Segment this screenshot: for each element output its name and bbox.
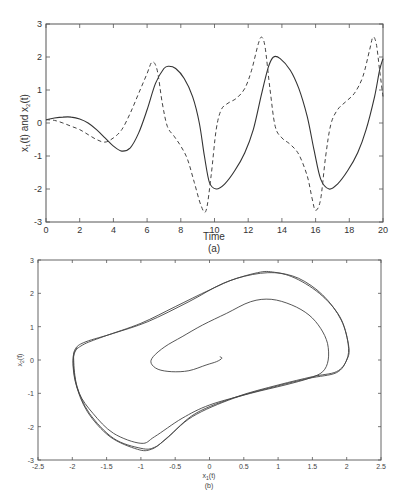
- x-tick-label: 8: [178, 225, 183, 235]
- y-tick-label: 0: [37, 118, 42, 128]
- x-tick-label: 4: [111, 225, 116, 235]
- y-tick-label: -3: [34, 217, 42, 227]
- x-tick-label: -2: [69, 463, 75, 470]
- y-tick-label: -1: [28, 390, 34, 397]
- y-tick-label: -3: [28, 457, 34, 464]
- x-tick-label: 6: [145, 225, 150, 235]
- chart-b-x-axis-label: x1(t): [203, 472, 216, 481]
- x-tick-label: 14: [277, 225, 287, 235]
- y-tick-label: 1: [37, 85, 42, 95]
- y-tick-label: -2: [28, 424, 34, 431]
- figure: 02468101214161820 -3-2-10123 Time (a) x1…: [0, 0, 410, 501]
- x-tick-label: -0.5: [169, 463, 181, 470]
- chart-b-series-trajectory: [73, 271, 349, 450]
- x-tick-label: 0.5: [239, 463, 249, 470]
- x-tick-label: 0: [208, 463, 212, 470]
- x-tick-label: 20: [378, 225, 388, 235]
- x-tick-label: -1.5: [101, 463, 113, 470]
- chart-b-y-tick-labels: -3-2-10123: [28, 257, 34, 464]
- x-tick-label: 2: [345, 463, 349, 470]
- x-tick-label: 18: [344, 225, 354, 235]
- x-tick-label: -2.5: [32, 463, 44, 470]
- chart-a-series-x1-solid: [46, 56, 383, 189]
- chart-a-ticks: [46, 24, 383, 222]
- chart-b-x-tick-labels: -2.5-2-1.5-1-0.500.511.522.5: [32, 463, 386, 470]
- chart-b-caption: (b): [205, 482, 214, 490]
- chart-b-phase-portrait: -2.5-2-1.5-1-0.500.511.522.5 -3-2-10123 …: [16, 257, 386, 490]
- y-tick-label: 1: [30, 324, 34, 331]
- x-tick-label: 2.5: [376, 463, 386, 470]
- chart-a-caption: (a): [208, 243, 220, 254]
- y-tick-label: 3: [37, 19, 42, 29]
- x-tick-label: 16: [311, 225, 321, 235]
- chart-a-x-axis-label: Time: [203, 231, 225, 242]
- chart-b-y-axis-label: x2(t): [16, 354, 25, 367]
- chart-a-y-tick-labels: -3-2-10123: [34, 19, 42, 227]
- x-tick-label: -1: [138, 463, 144, 470]
- y-tick-label: 3: [30, 257, 34, 264]
- y-tick-label: 2: [30, 290, 34, 297]
- x-tick-label: 12: [243, 225, 253, 235]
- chart-a-y-axis-label: x1(t) and x2(t): [19, 94, 31, 152]
- y-tick-label: 0: [30, 357, 34, 364]
- chart-a-series-x2-dashed: [46, 37, 383, 213]
- chart-a-frame: [46, 24, 383, 222]
- y-tick-label: -2: [34, 184, 42, 194]
- x-tick-label: 0: [43, 225, 48, 235]
- y-tick-label: -1: [34, 151, 42, 161]
- chart-a-time-series: 02468101214161820 -3-2-10123 Time (a) x1…: [19, 19, 388, 254]
- x-tick-label: 1.5: [308, 463, 318, 470]
- x-tick-label: 1: [276, 463, 280, 470]
- x-tick-label: 2: [77, 225, 82, 235]
- y-tick-label: 2: [37, 52, 42, 62]
